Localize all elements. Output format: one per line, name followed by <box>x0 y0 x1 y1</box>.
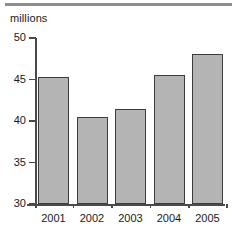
bar-2003 <box>115 109 146 204</box>
y-tick-mark-45 <box>29 79 36 81</box>
x-tick-label-2003: 2003 <box>111 212 151 224</box>
x-tick-mark-4 <box>188 204 190 208</box>
bar-2001 <box>38 77 69 204</box>
x-tick-mark-3 <box>150 204 152 208</box>
y-tick-mark-40 <box>29 120 36 122</box>
bar-2002 <box>77 117 108 204</box>
bar-2005 <box>192 54 223 204</box>
y-tick-label-40: 40 <box>2 115 26 126</box>
x-tick-mark-1 <box>73 204 75 208</box>
x-tick-label-2001: 2001 <box>34 212 74 224</box>
bar-2004 <box>154 75 185 204</box>
x-tick-mark-0 <box>35 204 37 208</box>
y-tick-mark-35 <box>29 162 36 164</box>
y-tick-mark-50 <box>29 37 36 39</box>
x-tick-mark-2 <box>111 204 113 208</box>
y-tick-label-45: 45 <box>2 74 26 85</box>
bar-chart-figure: millions 50 45 40 35 30 <box>0 0 237 237</box>
plot-area: 50 45 40 35 30 2001 20 <box>0 0 237 237</box>
y-tick-label-30: 30 <box>2 198 26 209</box>
x-tick-label-2005: 2005 <box>188 212 228 224</box>
x-tick-mark-5 <box>226 204 228 208</box>
x-tick-label-2002: 2002 <box>72 212 112 224</box>
y-tick-label-50: 50 <box>2 32 26 43</box>
y-tick-label-35: 35 <box>2 157 26 168</box>
x-tick-label-2004: 2004 <box>149 212 189 224</box>
x-axis-line <box>27 204 225 206</box>
